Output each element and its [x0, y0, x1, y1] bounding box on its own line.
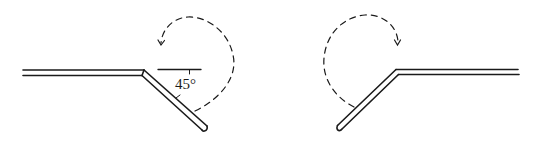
- right-horizontal-bar: [396, 70, 519, 75]
- right-rotation-arc: [324, 15, 398, 107]
- right-figure: [324, 15, 519, 131]
- right-diagonal-bar: [337, 70, 399, 131]
- angle-label: 45°: [175, 76, 196, 92]
- right-arrow-head-icon: [395, 40, 401, 45]
- left-horizontal-bar: [23, 70, 144, 76]
- diagram-canvas: 45°: [0, 0, 544, 148]
- angle-tick-diagonal: [176, 95, 180, 98]
- left-figure: [23, 17, 234, 131]
- left-rotation-arc: [161, 17, 234, 111]
